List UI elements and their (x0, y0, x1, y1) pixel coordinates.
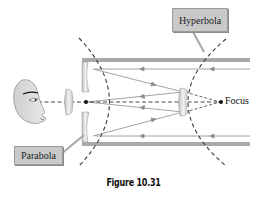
tube-bottom-wall (82, 142, 250, 146)
hyperbola-leader (192, 30, 204, 52)
hyperbola-label: Hyperbola (172, 8, 228, 32)
parabola-label: Parabola (14, 146, 63, 165)
tube-top-wall (82, 58, 250, 62)
telescope-diagram: Hyperbola Parabola Focus Figure 10.31 (0, 0, 267, 198)
secondary-mirror (179, 88, 189, 116)
focus-label: Focus (225, 95, 249, 106)
primary-focal-point (84, 100, 88, 104)
parabola-leader (60, 135, 84, 155)
focus-point (219, 100, 223, 104)
eyepiece-lens (65, 89, 74, 115)
figure-caption: Figure 10.31 (27, 177, 241, 188)
